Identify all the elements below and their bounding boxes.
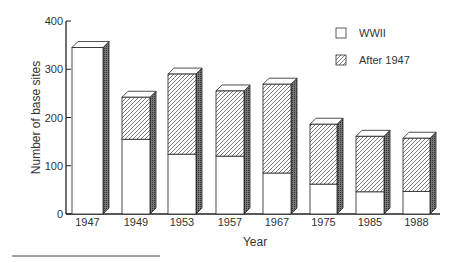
x-tick-label: 1949 <box>124 216 148 228</box>
y-tick-label: 200 <box>45 112 63 124</box>
svg-text:After 1947: After 1947 <box>359 54 410 66</box>
segment-after-1947 <box>310 124 337 184</box>
segment-wwii <box>216 156 244 214</box>
bar-1957: 1957 <box>216 85 250 228</box>
legend-item-1: After 1947 <box>336 54 410 66</box>
segment-wwii <box>356 192 384 214</box>
x-axis-label: Year <box>243 235 267 249</box>
y-axis-label: Number of base sites <box>29 61 43 174</box>
y-tick-label: 0 <box>57 208 63 220</box>
segment-wwii <box>263 173 291 214</box>
legend: WWIIAfter 1947 <box>336 27 410 66</box>
bar-1985: 1985 <box>356 130 390 228</box>
y-tick-label: 300 <box>45 63 63 75</box>
segment-after-1947 <box>122 97 150 139</box>
bar-1975: 1975 <box>310 118 343 228</box>
segment-wwii <box>403 191 430 214</box>
bar-1953: 1953 <box>168 68 202 228</box>
x-tick-label: 1947 <box>75 216 99 228</box>
x-tick-label: 1957 <box>218 216 242 228</box>
bars: 19471949195319571967197519851988 <box>72 42 436 228</box>
segment-after-1947 <box>356 136 384 191</box>
bar-1947: 1947 <box>72 42 109 228</box>
x-tick-label: 1975 <box>311 216 335 228</box>
segment-after-1947 <box>263 84 291 173</box>
bar-1967: 1967 <box>263 78 297 228</box>
svg-text:WWII: WWII <box>359 27 386 39</box>
segment-wwii <box>72 48 103 214</box>
stacked-bar-chart: 0100200300400Number of base sitesYear 19… <box>0 0 461 263</box>
x-tick-label: 1985 <box>358 216 382 228</box>
y-tick-label: 100 <box>45 160 63 172</box>
segment-after-1947 <box>216 91 244 156</box>
segment-wwii <box>310 184 337 214</box>
x-tick-label: 1967 <box>265 216 289 228</box>
x-tick-label: 1953 <box>170 216 194 228</box>
segment-wwii <box>168 154 196 214</box>
legend-item-0: WWII <box>336 27 386 39</box>
segment-wwii <box>122 139 150 214</box>
segment-after-1947 <box>168 74 196 154</box>
x-tick-label: 1988 <box>404 216 428 228</box>
segment-after-1947 <box>403 138 430 191</box>
bar-1949: 1949 <box>122 91 156 228</box>
y-tick-label: 400 <box>45 15 63 27</box>
